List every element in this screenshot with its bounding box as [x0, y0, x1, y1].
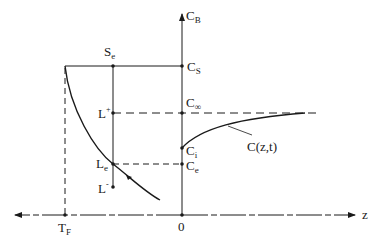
cs-label: CS [187, 59, 201, 76]
ce-label: Ce [186, 158, 199, 175]
origin-label: 0 [178, 219, 185, 234]
z-axis-label: z [362, 207, 368, 222]
curve-label: C(z,t) [247, 139, 277, 154]
point-origin [180, 213, 184, 217]
point-tf [63, 213, 67, 217]
tf-label: TF [58, 220, 71, 237]
cb-axis-label: CB [186, 8, 201, 25]
concentration-curve [182, 113, 305, 148]
lminus-label: L- [98, 180, 109, 196]
point-ci [180, 146, 184, 150]
point-se [111, 64, 115, 68]
cinf-label: C∞ [186, 95, 201, 112]
point-cs [180, 64, 184, 68]
point-cinf [180, 111, 184, 115]
curve-label-leader [228, 126, 252, 135]
point-le [111, 162, 115, 166]
diagram-canvas: CB CS C∞ Ci Ce Se L+ Le L- TF 0 z C(z,t) [0, 0, 377, 240]
point-ce [180, 162, 184, 166]
se-label: Se [104, 44, 115, 61]
point-lminus [111, 185, 115, 189]
point-lplus [111, 111, 115, 115]
points [63, 64, 184, 217]
lplus-label: L+ [98, 105, 111, 121]
